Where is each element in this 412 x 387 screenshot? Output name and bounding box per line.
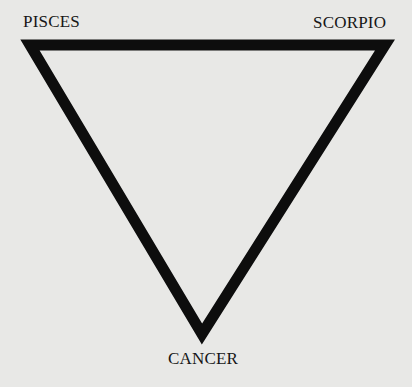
water-trine-triangle [30,45,385,334]
vertex-label-cancer: CANCER [0,350,406,367]
vertex-label-scorpio: SCORPIO [313,14,386,31]
vertex-label-pisces: PISCES [23,13,80,30]
triangle-diagram [0,0,412,387]
